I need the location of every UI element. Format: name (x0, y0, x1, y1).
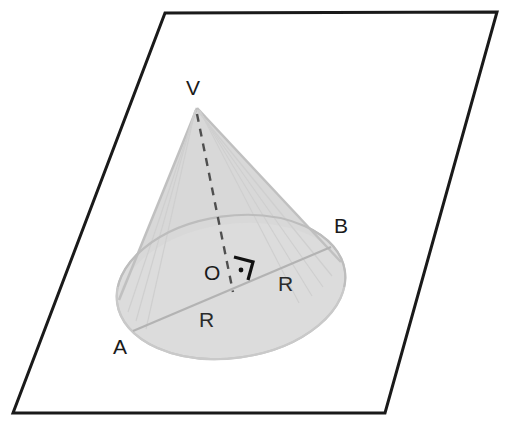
label-vertex-V: V (186, 76, 200, 99)
label-radius-left-R: R (199, 308, 214, 331)
label-vertex-B: B (334, 214, 348, 237)
label-center-O: O (204, 261, 220, 284)
label-vertex-A: A (113, 335, 127, 358)
figure-canvas: V B O A R R (0, 0, 506, 429)
cone-geometry-diagram: V B O A R R (0, 0, 506, 429)
label-radius-right-R: R (278, 272, 293, 295)
